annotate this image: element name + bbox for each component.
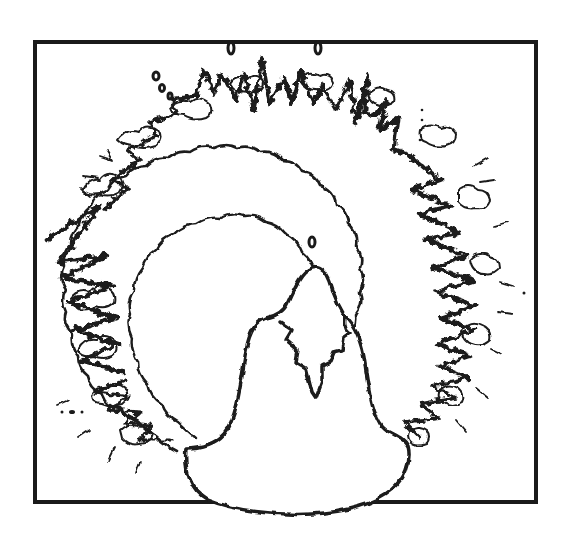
mountain (186, 268, 409, 515)
illustration-svg (0, 0, 568, 550)
illustration-canvas: line drawing of a mountain peak encircle… (0, 0, 568, 550)
oval-above-peak (309, 237, 315, 247)
bubbles (153, 42, 321, 247)
